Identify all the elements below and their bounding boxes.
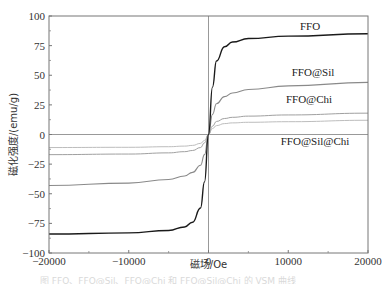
y-axis-ticks: −100−75−50−250255075100 — [22, 10, 52, 259]
series-label: FFO — [300, 20, 320, 32]
x-tick-label: −10000 — [112, 255, 146, 267]
series-label: FFO@Chi — [286, 93, 332, 105]
y-axis-title: 磁化强度/(emu/g) — [7, 93, 19, 176]
y-tick-label: −75 — [28, 217, 46, 229]
x-tick-label: 10000 — [275, 255, 303, 267]
figure-caption: 图 FFO、FFO@Sil、FFO@Chi 和 FFO@Sil@Chi 的 VS… — [40, 274, 380, 284]
y-tick-label: 25 — [34, 99, 46, 111]
y-tick-label: 50 — [34, 69, 46, 81]
y-tick-label: −100 — [22, 247, 45, 259]
y-tick-label: −25 — [28, 158, 46, 170]
x-axis-title: 磁场/Oe — [190, 258, 227, 270]
series-label: FFO@Sil — [292, 66, 335, 78]
y-tick-label: −50 — [28, 188, 46, 200]
x-tick-label: 20000 — [354, 255, 382, 267]
y-tick-label: 0 — [40, 129, 46, 141]
series-label: FFO@Sil@Chi — [281, 135, 350, 147]
y-tick-label: 75 — [34, 40, 46, 52]
y-tick-label: 100 — [29, 10, 46, 22]
